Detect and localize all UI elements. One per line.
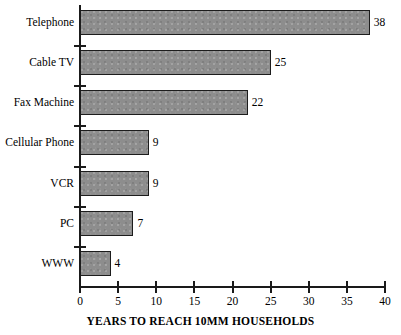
bar [80, 50, 271, 75]
x-axis-tick [232, 281, 234, 293]
bar-value-label: 9 [149, 130, 159, 155]
x-axis-tick [155, 281, 157, 293]
y-axis-tick [74, 166, 86, 168]
category-label: Fax Machine [0, 90, 74, 115]
bar [80, 130, 149, 155]
y-axis-tick [74, 85, 86, 87]
x-axis-tick [384, 281, 386, 293]
bar-row: 9 [80, 126, 385, 166]
category-label: VCR [0, 171, 74, 196]
x-axis-tick [346, 281, 348, 293]
y-axis-tick [74, 45, 86, 47]
x-axis-tick [193, 281, 195, 293]
y-axis-tick [74, 125, 86, 127]
category-label: WWW [0, 251, 74, 276]
bar-row: 7 [80, 207, 385, 247]
x-axis-title: YEARS TO REACH 10MM HOUSEHOLDS [0, 315, 401, 327]
bar [80, 251, 111, 276]
x-axis-tick-label: 20 [213, 295, 253, 307]
x-axis-tick [117, 281, 119, 293]
bar [80, 90, 248, 115]
x-axis-tick-label: 5 [98, 295, 138, 307]
x-axis-tick-label: 15 [174, 295, 214, 307]
bar-chart: 3825229974 0510152025303540 YEARS TO REA… [0, 0, 401, 335]
bar-row: 38 [80, 6, 385, 46]
y-axis-tick [74, 206, 86, 208]
bar-row: 9 [80, 167, 385, 207]
x-axis-tick-label: 0 [60, 295, 100, 307]
bar [80, 10, 370, 35]
x-axis-tick-label: 30 [289, 295, 329, 307]
x-axis-tick [270, 281, 272, 293]
x-axis-tick [308, 281, 310, 293]
bar [80, 171, 149, 196]
x-axis-tick-label: 10 [136, 295, 176, 307]
bar [80, 211, 133, 236]
bar-value-label: 22 [248, 90, 264, 115]
plot-area: 3825229974 [80, 6, 385, 287]
bar-value-label: 38 [370, 10, 386, 35]
category-label: PC [0, 211, 74, 236]
bar-row: 22 [80, 86, 385, 126]
bar-value-label: 7 [133, 211, 143, 236]
x-axis-tick [79, 281, 81, 293]
category-label: Telephone [0, 10, 74, 35]
x-axis-tick-label: 25 [251, 295, 291, 307]
bar-value-label: 4 [111, 251, 121, 276]
bar-row: 25 [80, 46, 385, 86]
bar-value-label: 25 [271, 50, 287, 75]
category-label: Cable TV [0, 50, 74, 75]
bar-value-label: 9 [149, 171, 159, 196]
x-axis-tick-label: 35 [327, 295, 367, 307]
y-axis-tick [74, 246, 86, 248]
category-label: Cellular Phone [0, 130, 74, 155]
x-axis-tick-label: 40 [365, 295, 401, 307]
